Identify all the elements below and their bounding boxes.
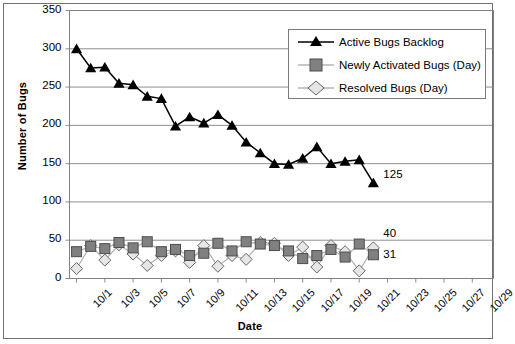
data-label-125: 125 bbox=[383, 168, 402, 180]
legend-item-active-bugs-backlog: Active Bugs Backlog bbox=[289, 30, 485, 53]
legend-label-1: Newly Activated Bugs (Day) bbox=[339, 59, 481, 71]
data-label-40: 40 bbox=[383, 227, 396, 239]
diamond-marker-icon bbox=[295, 79, 337, 97]
legend-label-0: Active Bugs Backlog bbox=[339, 36, 444, 48]
chart-legend: Active Bugs Backlog Newly Activated Bugs… bbox=[288, 29, 486, 99]
legend-item-resolved-bugs: Resolved Bugs (Day) bbox=[289, 76, 485, 99]
x-tick-marks bbox=[77, 279, 473, 283]
legend-label-2: Resolved Bugs (Day) bbox=[339, 82, 448, 94]
triangle-marker-icon bbox=[295, 33, 337, 51]
square-marker-icon bbox=[295, 56, 337, 74]
legend-item-newly-activated-bugs: Newly Activated Bugs (Day) bbox=[289, 53, 485, 76]
data-label-31: 31 bbox=[383, 248, 396, 260]
y-tick-marks bbox=[66, 11, 70, 279]
